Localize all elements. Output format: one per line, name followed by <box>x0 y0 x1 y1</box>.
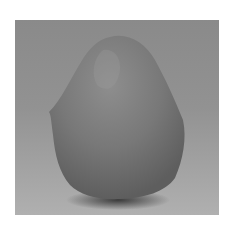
stone-object-illustration <box>15 20 219 215</box>
photo-frame <box>15 20 219 215</box>
